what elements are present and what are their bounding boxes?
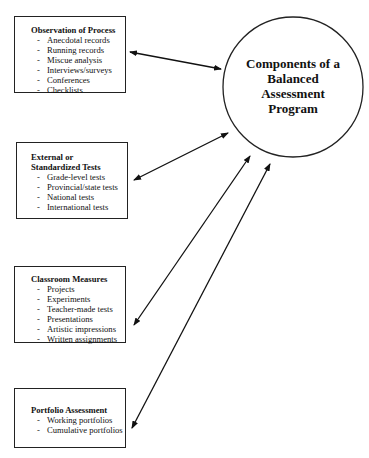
list-item: Anecdotal records	[37, 35, 125, 45]
center-label-line: Balanced	[228, 71, 358, 86]
box-classroom-measures: Classroom Measures Projects Experiments …	[14, 266, 126, 343]
arrow-portfolio-center	[132, 164, 270, 428]
box-title: Portfolio Assessment	[31, 405, 125, 415]
center-label-line: Components of a	[228, 56, 358, 71]
item-list: Grade-level tests Provincial/state tests…	[31, 172, 127, 212]
item-list: Working portfolios Cumulative portfolios	[31, 415, 125, 435]
center-label-line: Assessment	[228, 86, 358, 101]
item-list: Projects Experiments Teacher-made tests …	[31, 284, 125, 344]
box-portfolio-assessment: Portfolio Assessment Working portfolios …	[14, 388, 126, 448]
list-item: Provincial/state tests	[37, 182, 127, 192]
list-item: Experiments	[37, 294, 125, 304]
list-item: Checklists	[37, 85, 125, 95]
arrow-observation-center	[130, 52, 221, 69]
arrow-classroom-center	[134, 156, 250, 325]
list-item: Running records	[37, 45, 125, 55]
list-item: International tests	[37, 202, 127, 212]
box-title: Classroom Measures	[31, 274, 125, 284]
list-item: Artistic impressions	[37, 324, 125, 334]
list-item: Cumulative portfolios	[37, 425, 125, 435]
list-item: Miscue analysis	[37, 55, 125, 65]
list-item: Projects	[37, 284, 125, 294]
center-label-line: Program	[228, 101, 358, 116]
box-title: Observation of Process	[31, 25, 125, 35]
list-item: Interviews/surveys	[37, 65, 125, 75]
list-item: Presentations	[37, 314, 125, 324]
box-external-standardized-tests: External or Standardized Tests Grade-lev…	[16, 142, 128, 219]
list-item: Teacher-made tests	[37, 304, 125, 314]
box-title: Standardized Tests	[31, 162, 127, 172]
list-item: National tests	[37, 192, 127, 202]
item-list: Anecdotal records Running records Miscue…	[31, 35, 125, 95]
list-item: Written assignments	[37, 334, 125, 344]
list-item: Conferences	[37, 75, 125, 85]
box-observation-of-process: Observation of Process Anecdotal records…	[14, 16, 126, 93]
arrow-external-center	[134, 133, 228, 180]
list-item: Grade-level tests	[37, 172, 127, 182]
list-item: Working portfolios	[37, 415, 125, 425]
center-label: Components of a Balanced Assessment Prog…	[228, 56, 358, 116]
box-title: External or	[31, 152, 127, 162]
